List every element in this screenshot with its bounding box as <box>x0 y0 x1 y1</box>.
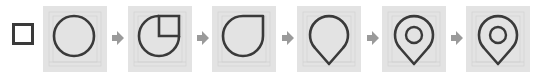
arrow-right-icon <box>197 31 209 45</box>
pin-inner-circle-shape <box>382 6 446 72</box>
teardrop-shape <box>212 6 276 72</box>
step-panel-pin-final <box>466 6 530 72</box>
step-panel-pin-inner-circle <box>382 6 446 72</box>
arrow-right-icon <box>282 31 294 45</box>
arrow-right-icon <box>112 31 124 45</box>
step-panel-circle-quarter-square <box>128 6 192 72</box>
circle-shape <box>43 6 107 72</box>
step-panel-teardrop <box>212 6 276 72</box>
pin-final-shape <box>466 6 530 72</box>
step-panel-pin <box>297 6 361 72</box>
step-panel-circle <box>43 6 107 72</box>
pin-shape <box>297 6 361 72</box>
arrow-right-icon <box>367 31 379 45</box>
arrow-right-icon <box>451 31 463 45</box>
start-square-shape <box>12 23 34 45</box>
circle-quarter-square-shape <box>128 6 192 72</box>
